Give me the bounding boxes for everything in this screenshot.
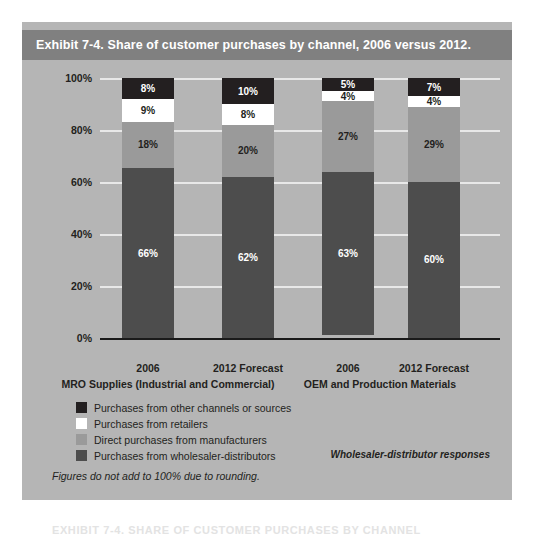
segment-retailers: 8% <box>222 104 274 125</box>
segment-wholesaler: 66% <box>122 168 174 338</box>
segment-retailers: 9% <box>122 99 174 122</box>
segment-direct: 18% <box>122 122 174 168</box>
x-tick-mro-2012: 2012 Forecast <box>193 362 303 374</box>
segment-retailers: 4% <box>322 91 374 101</box>
segment-other-channels: 7% <box>408 78 460 96</box>
segment-other-channels: 8% <box>122 78 174 99</box>
bar-mro-2006[interactable]: 8% 9% 18% 66% <box>122 78 174 338</box>
segment-retailers: 4% <box>408 96 460 106</box>
legend-swatch-icon <box>76 434 87 445</box>
legend-label: Purchases from other channels or sources <box>94 402 291 414</box>
group-label-oem: OEM and Production Materials <box>290 378 470 390</box>
group-label-mro: MRO Supplies (Industrial and Commercial) <box>60 378 276 390</box>
legend-item-direct: Direct purchases from manufacturers <box>76 432 496 447</box>
legend-item-other-channels: Purchases from other channels or sources <box>76 400 496 415</box>
bar-oem-2012[interactable]: 7% 4% 29% 60% <box>408 78 460 338</box>
segment-direct: 29% <box>408 107 460 182</box>
legend-item-retailers: Purchases from retailers <box>76 416 496 431</box>
segment-direct: 27% <box>322 101 374 171</box>
exhibit-title-bar: Exhibit 7-4. Share of customer purchases… <box>22 30 512 60</box>
segment-direct: 20% <box>222 125 274 177</box>
legend-source-note: Wholesaler-distributor responses <box>331 449 490 460</box>
segment-other-channels: 5% <box>322 78 374 91</box>
legend-swatch-icon <box>76 418 87 429</box>
exhibit-panel: Exhibit 7-4. Share of customer purchases… <box>22 22 512 500</box>
segment-wholesaler: 62% <box>222 177 274 338</box>
legend-label: Purchases from retailers <box>94 418 208 430</box>
bars-layer: 8% 9% 18% 66% 10% 8% 20% 62% 5% 4% 27% 6… <box>22 60 512 360</box>
bar-mro-2012[interactable]: 10% 8% 20% 62% <box>222 78 274 338</box>
x-axis-labels: 2006 2012 Forecast 2006 2012 Forecast MR… <box>22 362 512 396</box>
legend-swatch-icon <box>76 402 87 413</box>
legend-label: Direct purchases from manufacturers <box>94 434 267 446</box>
legend-label: Purchases from wholesaler-distributors <box>94 450 275 462</box>
exhibit-title: Exhibit 7-4. Share of customer purchases… <box>22 38 471 52</box>
segment-other-channels: 10% <box>222 78 274 104</box>
bar-oem-2006[interactable]: 5% 4% 27% 63% <box>322 78 374 338</box>
legend-swatch-icon <box>76 450 87 461</box>
chart-legend: Purchases from other channels or sources… <box>76 400 496 464</box>
segment-wholesaler: 60% <box>408 182 460 338</box>
chart-footnote: Figures do not add to 100% due to roundi… <box>52 470 260 482</box>
page-caption-cutoff: EXHIBIT 7-4. SHARE OF CUSTOMER PURCHASES… <box>52 524 421 536</box>
chart-plot-area: 100% 80% 60% 40% 20% 0% 8% 9% 18% 66% 10… <box>22 60 512 360</box>
x-tick-oem-2012: 2012 Forecast <box>379 362 489 374</box>
segment-wholesaler: 63% <box>322 172 374 336</box>
x-tick-mro-2006: 2006 <box>93 362 203 374</box>
